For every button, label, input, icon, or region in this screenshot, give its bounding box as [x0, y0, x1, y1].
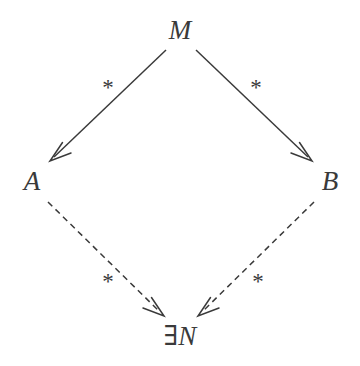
arrowhead-a-to-n	[143, 298, 164, 317]
node-label-b: B	[322, 168, 339, 195]
edge-label-m-to-b: *	[250, 76, 262, 99]
diagram-canvas: M A B ∃N * * * *	[0, 0, 360, 366]
node-label-m: M	[169, 17, 192, 44]
edge-label-b-to-n: *	[252, 270, 264, 293]
edge-line-m-to-a	[54, 50, 166, 157]
edge-a-to-n	[48, 202, 164, 316]
node-label-a: A	[24, 168, 41, 195]
edge-line-a-to-n	[48, 202, 160, 312]
diagram-edges-svg	[0, 0, 360, 366]
edge-m-to-a	[50, 50, 166, 161]
edge-line-b-to-n	[202, 202, 314, 312]
edge-label-m-to-a: *	[102, 76, 114, 99]
edge-label-a-to-n: *	[102, 270, 114, 293]
exists-quantifier-symbol: ∃	[164, 321, 179, 351]
arrowhead-b-to-n	[198, 298, 219, 317]
node-variable-n: N	[178, 321, 196, 351]
edge-b-to-n	[198, 202, 314, 316]
edge-m-to-b	[196, 50, 312, 161]
edge-line-m-to-b	[196, 50, 308, 157]
node-label-exists-n: ∃N	[164, 323, 197, 350]
